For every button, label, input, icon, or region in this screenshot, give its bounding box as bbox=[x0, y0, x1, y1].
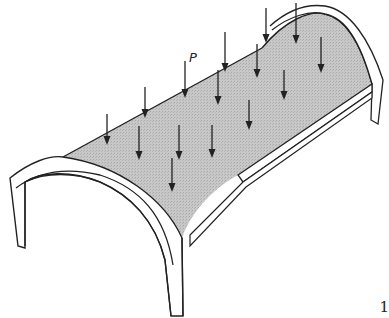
load-label-p: P bbox=[189, 50, 197, 65]
page-number-fragment: 1 bbox=[379, 298, 389, 316]
barrel-vault-diagram: P bbox=[0, 0, 389, 318]
